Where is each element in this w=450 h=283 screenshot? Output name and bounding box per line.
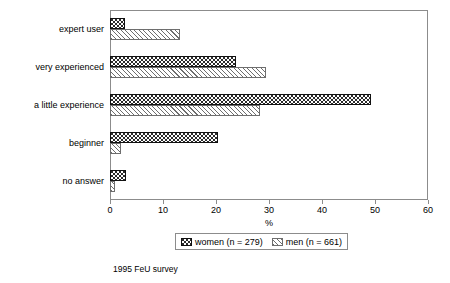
x-tick-label-40: 40	[307, 205, 337, 215]
chart-legend: women (n = 279) men (n = 661)	[175, 233, 348, 250]
bar-men-expert-user	[110, 29, 180, 40]
legend-swatch-men-icon	[272, 238, 283, 246]
bar-men-a-little-experience	[110, 105, 260, 116]
x-tick-label-60: 60	[413, 205, 443, 215]
x-axis-title: %	[0, 218, 450, 228]
bar-women-beginner	[110, 132, 218, 143]
x-axis-title-text: %	[265, 218, 273, 228]
bar-men-beginner	[110, 143, 121, 154]
legend-swatch-women-icon	[181, 238, 192, 246]
x-tick-10	[163, 200, 164, 204]
category-label-a-little-experience: a little experience	[34, 100, 104, 110]
x-tick-label-20: 20	[201, 205, 231, 215]
bar-men-no-answer	[110, 181, 115, 192]
x-tick-0	[110, 200, 111, 204]
legend-item-women: women (n = 279)	[181, 237, 263, 247]
bar-men-very-experienced	[110, 67, 266, 78]
bar-women-very-experienced	[110, 56, 236, 67]
x-tick-60	[428, 200, 429, 204]
bar-women-no-answer	[110, 170, 126, 181]
x-tick-label-10: 10	[148, 205, 178, 215]
category-label-very-experienced: very experienced	[35, 62, 104, 72]
x-tick-30	[269, 200, 270, 204]
bar-women-a-little-experience	[110, 94, 371, 105]
bar-women-expert-user	[110, 18, 125, 29]
x-tick-label-30: 30	[254, 205, 284, 215]
x-tick-label-0: 0	[95, 205, 125, 215]
category-label-no-answer: no answer	[62, 176, 104, 186]
category-label-expert-user: expert user	[59, 24, 104, 34]
legend-item-men: men (n = 661)	[272, 237, 342, 247]
legend-label-women: women (n = 279)	[195, 237, 263, 247]
legend-label-men: men (n = 661)	[286, 237, 342, 247]
chart-caption: 1995 FeU survey	[113, 264, 178, 274]
x-tick-50	[375, 200, 376, 204]
bar-chart: no answerbeginnera little experiencevery…	[0, 0, 450, 283]
x-tick-label-50: 50	[360, 205, 390, 215]
x-tick-40	[322, 200, 323, 204]
category-label-beginner: beginner	[69, 138, 104, 148]
x-tick-20	[216, 200, 217, 204]
